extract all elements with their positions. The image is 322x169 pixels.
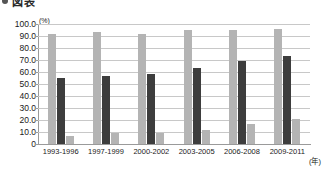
bar [292, 119, 300, 144]
y-axis-tick [35, 108, 38, 109]
y-axis-tick-label: 60.0 [0, 68, 36, 77]
y-axis-tick-label: 50.0 [0, 80, 36, 89]
y-axis-tick-label: 0 [0, 140, 36, 149]
y-axis-tick-label: 90.0 [0, 32, 36, 41]
bar [229, 30, 237, 144]
y-axis-tick-label: 100.0 [0, 20, 36, 29]
x-axis-tick-label: 1993-1996 [38, 147, 83, 156]
y-axis-tick-label: 40.0 [0, 92, 36, 101]
bar [156, 133, 164, 144]
x-axis-line [38, 144, 311, 145]
bar-group [219, 24, 264, 144]
y-axis-tick [35, 96, 38, 97]
y-axis-tick [35, 132, 38, 133]
y-axis-tick-label: 20.0 [0, 116, 36, 125]
y-axis-tick [35, 144, 38, 145]
y-axis-tick [35, 84, 38, 85]
bar-group [83, 24, 128, 144]
bar [48, 34, 56, 144]
y-axis-tick [35, 120, 38, 121]
chart-title-strip: 図表 [0, 0, 322, 10]
y-axis-tick [35, 24, 38, 25]
bar [184, 30, 192, 144]
x-axis-tick-label: 2006-2008 [219, 147, 264, 156]
y-axis-unit-label: (%) [39, 17, 50, 24]
y-axis-tick [35, 36, 38, 37]
bar [247, 124, 255, 144]
y-axis-tick [35, 72, 38, 73]
y-axis-tick-label: 70.0 [0, 56, 36, 65]
bar [138, 34, 146, 144]
bar [111, 133, 119, 144]
y-axis-tick-label: 80.0 [0, 44, 36, 53]
y-axis-labels: 100.090.080.070.060.050.040.030.020.010.… [0, 0, 36, 169]
x-axis-tick-label: 2003-2005 [174, 147, 219, 156]
bar-group [174, 24, 219, 144]
bar [202, 130, 210, 144]
x-axis-unit-label: (年) [309, 155, 321, 166]
y-axis-tick [35, 60, 38, 61]
bar [102, 76, 110, 144]
bar-group [129, 24, 174, 144]
y-axis-tick [35, 48, 38, 49]
x-axis-tick-label: 2009-2011 [265, 147, 310, 156]
chart-container: 図表 (%) 100.090.080.070.060.050.040.030.0… [0, 0, 322, 169]
bar [66, 136, 74, 144]
y-axis-tick-label: 10.0 [0, 128, 36, 137]
bar-groups [38, 24, 310, 144]
bar [238, 61, 246, 144]
bar [57, 78, 65, 144]
x-axis-tick-label: 2000-2002 [129, 147, 174, 156]
bar [193, 68, 201, 144]
x-axis-tick-label: 1997-1999 [83, 147, 128, 156]
bar [147, 74, 155, 144]
bar [274, 29, 282, 144]
x-axis-labels: 1993-19961997-19992000-20022003-20052006… [38, 147, 310, 156]
y-axis-tick-label: 30.0 [0, 104, 36, 113]
bar [283, 56, 291, 144]
bar-group [38, 24, 83, 144]
bar [93, 32, 101, 144]
bar-group [265, 24, 310, 144]
